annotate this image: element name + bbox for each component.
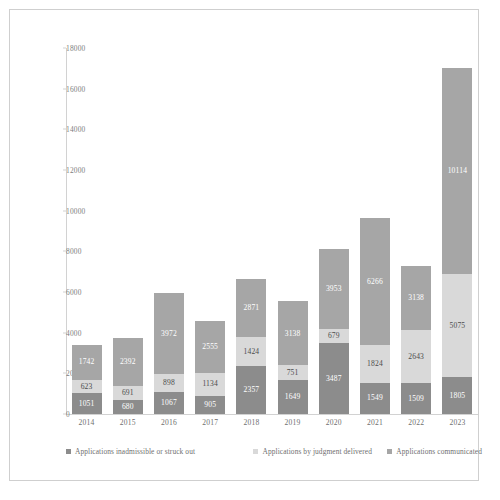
x-axis-tick-label: 2018 — [243, 418, 259, 427]
bar-segment[interactable]: 2392 — [113, 338, 143, 387]
bar-segment[interactable]: 3138 — [401, 266, 431, 330]
bar-segment[interactable]: 1649 — [278, 380, 308, 414]
bar-segment-value: 3953 — [326, 285, 342, 293]
bar-segment[interactable]: 898 — [154, 374, 184, 392]
bar-segment-value: 1067 — [161, 399, 177, 407]
bar-segment-value: 1549 — [367, 394, 383, 402]
bar-segment-value: 623 — [81, 383, 93, 391]
bar-segment-value: 1051 — [79, 400, 95, 408]
x-axis-tick-label: 2014 — [79, 418, 95, 427]
bar-segment-value: 905 — [204, 401, 216, 409]
x-axis-tick-label: 2023 — [449, 418, 465, 427]
x-axis-tick-label: 2015 — [120, 418, 136, 427]
x-axis-line — [66, 414, 478, 415]
chart-frame: 0200040006000800010000120001400016000180… — [9, 9, 479, 481]
x-axis-tick-label: 2019 — [285, 418, 301, 427]
bar-segment-value: 679 — [328, 332, 340, 340]
bar-segment-value: 1824 — [367, 360, 383, 368]
x-axis-tick-label: 2017 — [202, 418, 218, 427]
bar-segment[interactable]: 623 — [72, 380, 102, 393]
y-axis-tick-mark — [63, 332, 66, 333]
bar-segment[interactable]: 1824 — [360, 345, 390, 382]
legend-label: Applications by judgment delivered — [262, 447, 372, 456]
y-axis-tick-mark — [63, 170, 66, 171]
bar-segment-value: 3138 — [285, 330, 301, 338]
bar-2016[interactable]: 39728981067 — [154, 293, 184, 414]
bar-segment[interactable]: 5075 — [442, 274, 472, 377]
bar-segment-value: 2357 — [243, 386, 259, 394]
bar-segment[interactable]: 905 — [195, 396, 225, 414]
bar-segment-value: 751 — [287, 369, 299, 377]
x-axis-tick-label: 2016 — [161, 418, 177, 427]
bar-segment[interactable]: 2357 — [236, 366, 266, 414]
bar-segment-value: 2392 — [120, 358, 136, 366]
bar-segment-value: 691 — [122, 389, 134, 397]
legend-item[interactable]: Applications inadmissible or struck out — [66, 447, 195, 456]
bar-segment[interactable]: 6266 — [360, 218, 390, 345]
bar-2014[interactable]: 17426231051 — [72, 345, 102, 414]
bar-segment[interactable]: 3953 — [319, 249, 349, 329]
bar-2015[interactable]: 2392691680 — [113, 337, 143, 414]
bar-segment-value: 898 — [163, 379, 175, 387]
y-axis-tick-mark — [63, 210, 66, 211]
bar-segment[interactable]: 680 — [113, 400, 143, 414]
bar-segment[interactable]: 691 — [113, 386, 143, 400]
bar-2018[interactable]: 287114242357 — [236, 279, 266, 414]
legend-label: Applications inadmissible or struck out — [75, 447, 195, 456]
legend-item[interactable]: Applications by judgment delivered — [253, 447, 372, 456]
bar-segment-value: 1805 — [449, 392, 465, 400]
bar-2023[interactable]: 1011450751805 — [442, 68, 472, 414]
bar-segment[interactable]: 1742 — [72, 345, 102, 380]
bar-segment-value: 6266 — [367, 278, 383, 286]
y-axis-tick-mark — [63, 88, 66, 89]
x-axis-tick-label: 2022 — [408, 418, 424, 427]
bar-segment-value: 2871 — [243, 304, 259, 312]
bar-segment[interactable]: 2643 — [401, 330, 431, 384]
bar-segment[interactable]: 3487 — [319, 343, 349, 414]
bar-2019[interactable]: 31387511649 — [278, 301, 308, 414]
bar-segment-value: 1742 — [79, 358, 95, 366]
y-axis-tick-mark — [63, 129, 66, 130]
bar-2020[interactable]: 39536793487 — [319, 249, 349, 414]
bar-segment[interactable]: 2555 — [195, 321, 225, 373]
bar-segment-value: 2555 — [202, 343, 218, 351]
x-axis-tick-label: 2020 — [326, 418, 342, 427]
bar-segment-value: 10114 — [448, 167, 467, 175]
y-axis-tick-mark — [63, 48, 66, 49]
bar-segment[interactable]: 1805 — [442, 377, 472, 414]
bar-segment[interactable]: 751 — [278, 365, 308, 380]
bar-segment[interactable]: 679 — [319, 329, 349, 343]
bar-segment[interactable]: 2871 — [236, 279, 266, 337]
bar-segment[interactable]: 1067 — [154, 392, 184, 414]
bar-segment-value: 5075 — [449, 322, 465, 330]
bar-segment-value: 680 — [122, 403, 134, 411]
bar-segment[interactable]: 3972 — [154, 293, 184, 374]
y-axis-tick-mark — [63, 373, 66, 374]
y-axis-tick-mark — [63, 414, 66, 415]
bar-segment[interactable]: 1509 — [401, 383, 431, 414]
bar-segment[interactable]: 1134 — [195, 373, 225, 396]
legend-swatch-icon — [387, 449, 392, 454]
legend-swatch-icon — [253, 449, 258, 454]
bar-segment[interactable]: 3138 — [278, 301, 308, 365]
bar-segment-value: 1649 — [285, 393, 301, 401]
legend-swatch-icon — [66, 449, 71, 454]
bar-2017[interactable]: 25551134905 — [195, 321, 225, 414]
bar-2021[interactable]: 626618241549 — [360, 218, 390, 414]
legend-label: Applications communicated — [396, 447, 482, 456]
bar-segment-value: 1134 — [202, 380, 218, 388]
bar-segment-value: 3972 — [161, 330, 177, 338]
bar-segment[interactable]: 10114 — [442, 68, 472, 274]
bar-segment-value: 1509 — [408, 395, 424, 403]
legend-item[interactable]: Applications communicated — [387, 447, 482, 456]
bar-segment[interactable]: 1051 — [72, 393, 102, 414]
bar-segment[interactable]: 1424 — [236, 337, 266, 366]
bar-2022[interactable]: 313826431509 — [401, 266, 431, 414]
bar-segment-value: 3487 — [326, 375, 342, 383]
bar-segment[interactable]: 1549 — [360, 383, 390, 414]
y-axis-tick-mark — [63, 292, 66, 293]
bar-segment-value: 1424 — [243, 348, 259, 356]
bar-segment-value: 3138 — [408, 294, 424, 302]
x-axis-tick-label: 2021 — [367, 418, 383, 427]
y-axis-tick-mark — [63, 251, 66, 252]
